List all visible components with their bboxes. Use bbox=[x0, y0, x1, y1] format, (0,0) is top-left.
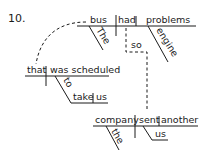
word-company: company bbox=[95, 114, 139, 125]
word-to: to bbox=[61, 75, 75, 89]
word-so: so bbox=[131, 39, 142, 50]
word-problems: problems bbox=[146, 14, 190, 25]
word-sent: sent bbox=[139, 114, 160, 125]
word-another: another bbox=[161, 114, 198, 125]
sentence-diagram: 10. bus had problems The engine so that … bbox=[0, 0, 202, 157]
word-the: the bbox=[109, 127, 126, 146]
relative-connector bbox=[36, 22, 86, 64]
word-take: take bbox=[73, 91, 94, 102]
diagram-number: 10. bbox=[8, 12, 26, 25]
word-engine: engine bbox=[154, 25, 181, 58]
indirect-object-slant bbox=[143, 126, 152, 140]
word-us-2: us bbox=[155, 128, 166, 139]
word-was-scheduled: was scheduled bbox=[50, 64, 120, 75]
word-bus: bus bbox=[90, 14, 107, 25]
word-that: that bbox=[27, 64, 47, 75]
word-The: The bbox=[94, 24, 113, 46]
word-had: had bbox=[118, 14, 136, 25]
word-us-1: us bbox=[96, 91, 107, 102]
